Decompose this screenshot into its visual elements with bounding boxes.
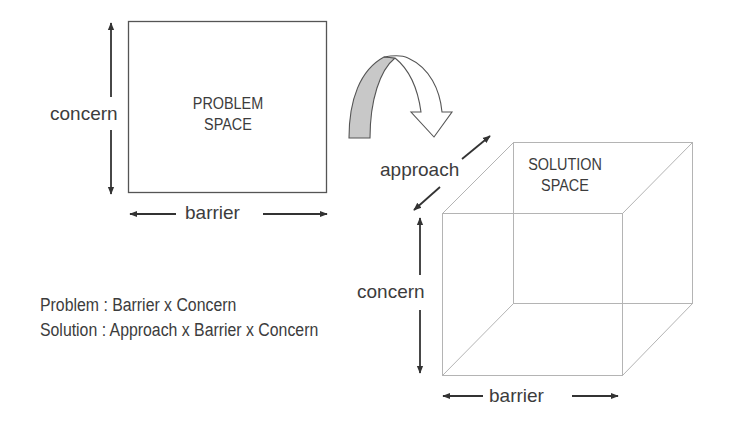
formula-block: Problem : Barrier x Concern Solution : A…	[40, 293, 318, 343]
curved-arrow-icon	[349, 56, 452, 138]
problem-barrier-label: barrier	[185, 203, 240, 222]
solution-formula: Solution : Approach x Barrier x Concern	[40, 318, 318, 343]
problem-space-title-line2: SPACE	[174, 114, 282, 135]
solution-space-title-line2: SPACE	[511, 175, 619, 196]
problem-space-title-line1: PROBLEM	[174, 93, 282, 114]
solution-space-title-line1: SOLUTION	[511, 154, 619, 175]
solution-space-title: SOLUTION SPACE	[511, 154, 619, 196]
diagram-canvas	[0, 0, 729, 429]
problem-concern-label: concern	[50, 104, 118, 123]
solution-concern-label: concern	[357, 282, 425, 301]
problem-space-title: PROBLEM SPACE	[174, 93, 282, 135]
approach-label: approach	[380, 160, 459, 179]
problem-formula: Problem : Barrier x Concern	[40, 293, 318, 318]
solution-barrier-label: barrier	[489, 386, 544, 405]
